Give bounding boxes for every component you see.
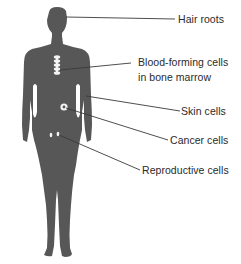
label-blood-forming-line1: Blood-forming cells (138, 56, 228, 69)
human-silhouette (22, 7, 92, 257)
label-skin-cells: Skin cells (181, 105, 226, 118)
label-hair-roots: Hair roots (178, 13, 224, 26)
body-diagram (0, 0, 241, 264)
skin-cells-line (86, 96, 180, 111)
label-blood-forming-line2: in bone marrow (138, 71, 228, 84)
bone-marrow-marker (54, 55, 60, 75)
cancer-cells-marker (60, 103, 67, 110)
label-cancer-cells: Cancer cells (170, 134, 228, 147)
hair-roots-line (66, 17, 175, 19)
label-blood-forming-cells: Blood-forming cells in bone marrow (138, 56, 228, 84)
label-reproductive-cells: Reproductive cells (142, 164, 229, 177)
